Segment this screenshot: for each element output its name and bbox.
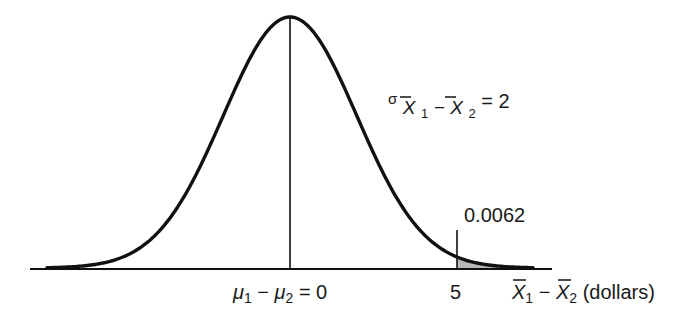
mean-tick-label: μ1 − μ2 = 0 [232, 281, 327, 306]
tail-area-label: 0.0062 [464, 204, 525, 226]
sigma-xbar2: X [449, 97, 464, 118]
mu2-sub: 2 [286, 290, 294, 306]
sigma-value: = 2 [481, 90, 509, 112]
mu2: μ [274, 281, 286, 303]
xbar1-sub: 1 [525, 290, 533, 306]
sigma-sub1: 1 [421, 106, 428, 121]
sigma-minus: − [434, 97, 450, 118]
xlabel-minus: − [533, 281, 556, 303]
xbar2-sub: 2 [569, 290, 577, 306]
sigma-symbol: σ [388, 90, 398, 107]
mu1: μ [232, 281, 244, 303]
mean-minus: − [252, 281, 275, 303]
sigma-sub2: 2 [469, 106, 476, 121]
sigma-xbar1: X [402, 97, 417, 118]
x-axis-label: X1 − X2 (dollars) [511, 281, 655, 306]
mean-value: = 0 [293, 281, 327, 303]
mu1-sub: 1 [244, 290, 252, 306]
xbar2: X [555, 281, 570, 303]
sigma-label: σ X 1 − X 2 = 2 [388, 86, 510, 122]
xbar1: X [511, 281, 526, 303]
tick-5-label: 5 [450, 281, 461, 303]
xlabel-unit: (dollars) [577, 281, 655, 303]
normal-distribution-chart: σ X 1 − X 2 = 2 0.0062 μ1 − μ2 = 0 5 X1 … [0, 0, 684, 322]
